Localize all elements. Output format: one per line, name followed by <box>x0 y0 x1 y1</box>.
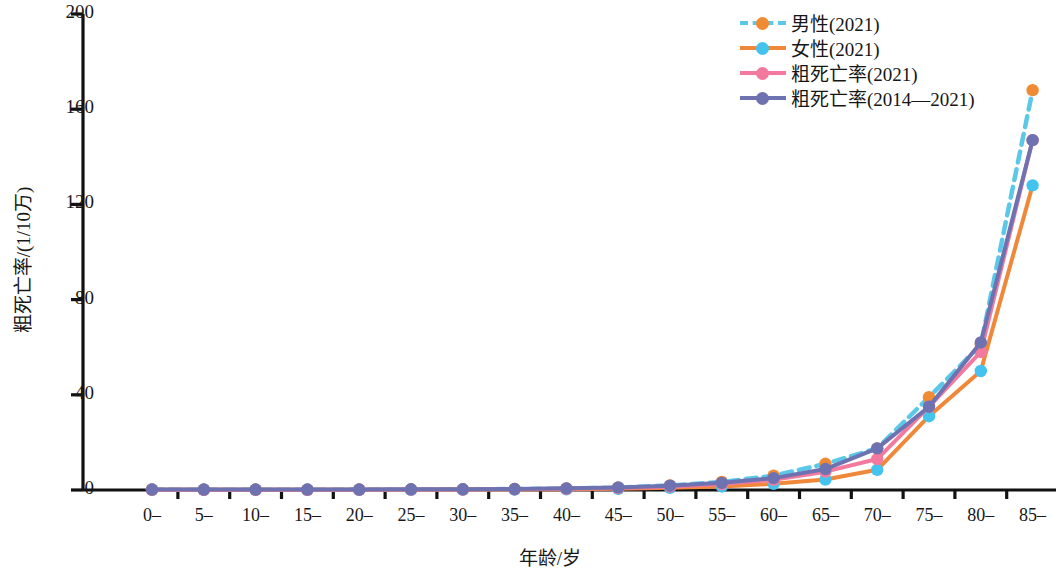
series-1 <box>146 84 1039 496</box>
data-point <box>871 453 883 465</box>
data-point <box>923 401 935 413</box>
data-point <box>767 472 779 484</box>
legend-swatch <box>740 39 786 57</box>
data-point <box>457 483 469 495</box>
legend-swatch <box>740 89 786 107</box>
y-tick-label: 80 <box>34 287 94 309</box>
x-tick-label: 85– <box>1003 505 1060 526</box>
legend-label: 粗死亡率(2021) <box>786 59 918 86</box>
legend-item-1[interactable]: 男性(2021) <box>740 10 1040 35</box>
data-point <box>716 477 728 489</box>
data-point <box>353 483 365 495</box>
legend-marker-icon <box>756 67 769 80</box>
chart-container: 粗死亡率/(1/10万) 04080120160200 0–5–10–15–20… <box>0 0 1060 575</box>
x-axis-title: 年龄/岁 <box>0 543 1060 570</box>
legend-swatch <box>740 64 786 82</box>
data-point <box>1026 179 1038 191</box>
series-2 <box>146 179 1039 496</box>
legend-item-3[interactable]: 粗死亡率(2021) <box>740 60 1040 85</box>
series-line <box>152 140 1033 490</box>
data-point <box>560 482 572 494</box>
legend-item-2[interactable]: 女性(2021) <box>740 35 1040 60</box>
chart-legend: 男性(2021)女性(2021)粗死亡率(2021)粗死亡率(2014—2021… <box>740 10 1040 110</box>
data-point <box>301 483 313 495</box>
series-layer <box>146 84 1039 496</box>
legend-marker-icon <box>756 42 769 55</box>
data-point <box>508 483 520 495</box>
y-tick-label: 40 <box>34 382 94 404</box>
legend-marker-icon <box>756 92 769 105</box>
data-point <box>612 481 624 493</box>
legend-label: 女性(2021) <box>786 34 880 61</box>
y-tick-label: 0 <box>34 477 94 499</box>
data-point <box>871 464 883 476</box>
data-point <box>975 365 987 377</box>
legend-label: 男性(2021) <box>786 9 880 36</box>
data-point <box>871 442 883 454</box>
series-line <box>152 185 1033 489</box>
legend-label: 粗死亡率(2014—2021) <box>786 84 975 111</box>
data-point <box>146 483 158 495</box>
x-axis-title-label: 年龄/岁 <box>479 548 581 569</box>
data-point <box>405 483 417 495</box>
y-tick-label: 200 <box>34 1 94 23</box>
legend-marker-icon <box>756 17 769 30</box>
data-point <box>664 480 676 492</box>
data-point <box>975 336 987 348</box>
data-point <box>198 483 210 495</box>
data-point <box>819 463 831 475</box>
legend-swatch <box>740 14 786 32</box>
data-point <box>249 483 261 495</box>
y-axis-title: 粗死亡率/(1/10万) <box>8 0 35 150</box>
y-tick-label: 120 <box>34 191 94 213</box>
y-axis-title-label: 粗死亡率/(1/10万) <box>8 150 35 370</box>
data-point <box>1026 134 1038 146</box>
y-tick-label: 160 <box>34 96 94 118</box>
legend-item-4[interactable]: 粗死亡率(2014—2021) <box>740 85 1040 110</box>
